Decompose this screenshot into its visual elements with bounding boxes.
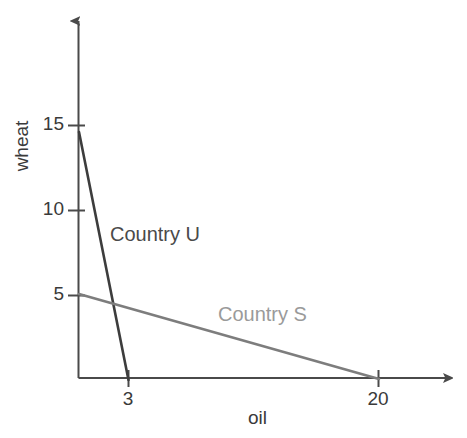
- ppf-chart-figure: 15 10 5 3 20 wheat oil Country U Country…: [0, 0, 467, 438]
- x-axis-tick-label-3: 3: [108, 388, 148, 410]
- y-axis-tick-label-10: 10: [22, 198, 64, 220]
- x-axis-tick-label-20: 20: [358, 388, 398, 410]
- series-line-country-u: [79, 132, 129, 380]
- series-label-country-s: Country S: [218, 303, 307, 326]
- x-axis-title: oil: [248, 407, 267, 429]
- series-label-country-u: Country U: [110, 223, 200, 246]
- y-axis-tick-label-5: 5: [22, 283, 64, 305]
- y-axis-title: wheat: [11, 111, 33, 181]
- chart-plot-area: [0, 0, 467, 438]
